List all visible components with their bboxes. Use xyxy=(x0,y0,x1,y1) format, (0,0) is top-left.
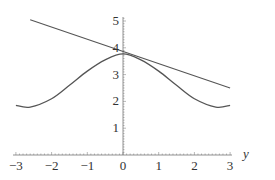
x-tick-labels: −3−2−10123 xyxy=(9,158,233,173)
x-tick-label: 0 xyxy=(120,158,127,173)
x-tick-label: −2 xyxy=(45,158,59,173)
y-tick-label: 3 xyxy=(113,67,120,82)
x-axis-label: y xyxy=(241,146,249,161)
x-tick-label: 2 xyxy=(191,158,198,173)
y-tick-label: 4 xyxy=(113,40,120,55)
y-tick-labels: 12345 xyxy=(113,13,120,135)
y-tick-label: 5 xyxy=(113,13,120,28)
x-tick-label: −1 xyxy=(80,158,94,173)
tangent-line-series xyxy=(30,20,230,88)
x-tick-label: 1 xyxy=(155,158,162,173)
x-tick-label: −3 xyxy=(9,158,23,173)
y-tick-label: 1 xyxy=(113,120,120,135)
plot-area: −3−2−10123 12345 y xyxy=(0,0,275,180)
x-tick-label: 3 xyxy=(227,158,234,173)
y-tick-label: 2 xyxy=(113,93,120,108)
